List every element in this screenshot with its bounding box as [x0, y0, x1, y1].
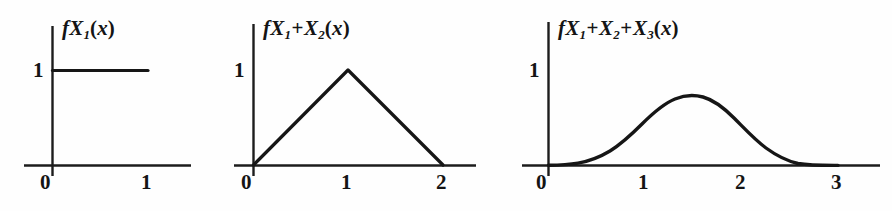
label-open-paren: (: [325, 16, 332, 40]
panel-1-xtick-1: 1: [141, 172, 152, 193]
panel-3-xtick-0: 0: [536, 172, 547, 193]
label-sub-2: 2: [613, 27, 620, 42]
label-close-paren: ): [343, 16, 350, 40]
label-X3: X: [633, 16, 647, 40]
label-X1: X: [270, 16, 284, 40]
panel-triangular: fX1+X2(x) 1 0 1 2: [232, 0, 490, 211]
label-X2: X: [599, 16, 613, 40]
panel-2-ytick-1: 1: [234, 60, 245, 81]
panel-1-xtick-0: 0: [40, 172, 51, 193]
panel-3-xtick-1: 1: [638, 172, 649, 193]
label-X2: X: [304, 16, 318, 40]
label-sub-1: 1: [284, 27, 291, 42]
panel-2-function-label: fX1+X2(x): [263, 18, 350, 41]
label-open-paren: (: [654, 16, 661, 40]
panel-3-xtick-3: 3: [831, 172, 842, 193]
label-arg-x: x: [332, 16, 343, 40]
panel-2-xtick-0: 0: [241, 172, 252, 193]
label-plus-1: +: [586, 16, 599, 40]
label-close-paren: ): [108, 16, 115, 40]
panel-1-ytick-1: 1: [33, 60, 44, 81]
label-sub-1: 1: [579, 27, 586, 42]
label-X: X: [69, 16, 83, 40]
label-X1: X: [565, 16, 579, 40]
label-arg-x: x: [97, 16, 108, 40]
triangular-density-curve: [254, 70, 444, 165]
label-plus-1: +: [291, 16, 304, 40]
panel-3-function-label: fX1+X2+X3(x): [558, 18, 679, 41]
panel-2-xtick-2: 2: [436, 172, 447, 193]
panel-1-plot: [0, 0, 232, 211]
bell-density-curve: [549, 95, 839, 165]
panel-uniform: fX1(x) 1 0 1: [0, 0, 232, 211]
panel-3-xtick-2: 2: [735, 172, 746, 193]
panel-bell: fX1+X2+X3(x) 1 0 1 2 3: [490, 0, 892, 211]
label-plus-2: +: [620, 16, 633, 40]
panel-2-xtick-1: 1: [341, 172, 352, 193]
figure-container: fX1(x) 1 0 1 fX1+X2(x) 1 0 1 2: [0, 0, 892, 211]
panel-1-function-label: fX1(x): [62, 18, 115, 41]
label-arg-x: x: [661, 16, 672, 40]
label-close-paren: ): [672, 16, 679, 40]
panel-3-ytick-1: 1: [529, 60, 540, 81]
